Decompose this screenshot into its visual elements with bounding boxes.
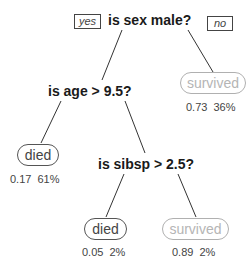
edge-sibsp-to-died	[106, 174, 124, 217]
leaf-stat-survived-small-family: 0.89 2%	[172, 246, 215, 258]
leaf-stat-died-adult-male: 0.17 61%	[10, 173, 59, 185]
leaf-stat-survived-female: 0.73 36%	[186, 101, 235, 113]
edge-age-to-died	[41, 101, 61, 143]
age-question: is age > 9.5?	[48, 83, 132, 99]
sibsp-question: is sibsp > 2.5?	[98, 156, 194, 172]
leaf-survived-female: survived	[180, 72, 246, 94]
leaf-died-adult-male: died	[17, 144, 59, 166]
edge-root-to-age	[102, 30, 122, 80]
leaf-died-large-family: died	[84, 218, 127, 240]
leaf-survived-small-family: survived	[162, 218, 229, 240]
yes-branch-tag: yes	[74, 14, 101, 29]
no-branch-tag: no	[207, 16, 233, 31]
edge-age-to-sibsp	[125, 101, 145, 153]
leaf-stat-died-large-family: 0.05 2%	[82, 246, 125, 258]
root-question: is sex male?	[108, 12, 191, 28]
edge-root-to-survived	[188, 30, 213, 72]
edge-sibsp-to-survived	[178, 174, 196, 217]
